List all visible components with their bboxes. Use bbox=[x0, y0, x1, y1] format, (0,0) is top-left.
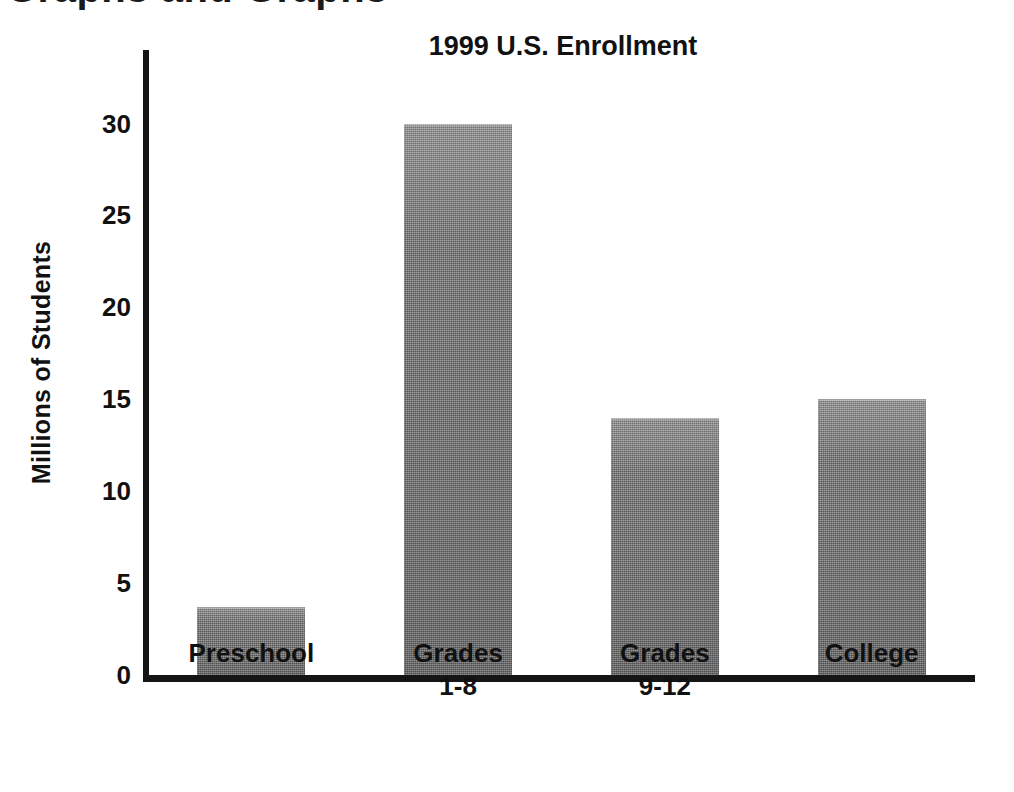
category-label: Grades 1-8 bbox=[355, 637, 562, 704]
y-axis-tick-0: 0 bbox=[117, 660, 131, 691]
y-axis-tick-20: 20 bbox=[102, 292, 131, 323]
chart-page: Graphs and Graphs 1999 U.S. Enrollment M… bbox=[0, 0, 1014, 792]
category-label: Preschool bbox=[148, 637, 355, 670]
plot-area: 051015202530 bbox=[148, 50, 975, 675]
y-axis-label: Millions of Students bbox=[24, 50, 58, 675]
bar bbox=[818, 399, 926, 675]
category-label: College bbox=[768, 637, 975, 670]
y-axis-tick-15: 15 bbox=[102, 384, 131, 415]
y-axis-line bbox=[143, 50, 149, 675]
y-axis-tick-10: 10 bbox=[102, 476, 131, 507]
y-axis-tick-25: 25 bbox=[102, 200, 131, 231]
y-axis-tick-30: 30 bbox=[102, 108, 131, 139]
bar bbox=[404, 124, 512, 675]
y-axis-tick-5: 5 bbox=[117, 568, 131, 599]
clipped-page-heading: Graphs and Graphs bbox=[0, 0, 1014, 10]
category-label: Grades 9-12 bbox=[562, 637, 769, 704]
